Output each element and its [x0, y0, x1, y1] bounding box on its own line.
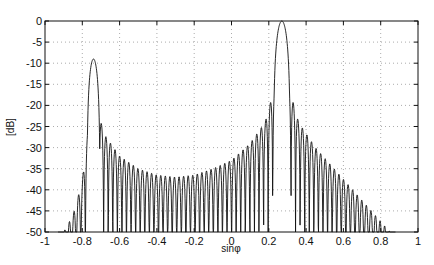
x-tick-label: 0.4 [298, 235, 313, 247]
y-tick-label: -40 [26, 184, 42, 196]
y-axis-label: [dB] [5, 118, 16, 136]
x-tick-label: -0.2 [185, 235, 204, 247]
y-tick-label: -10 [26, 57, 42, 69]
y-tick-label: -30 [26, 142, 42, 154]
x-tick-label: -0.8 [73, 235, 92, 247]
y-tick-label: -25 [26, 121, 42, 133]
x-axis-label: sinφ [221, 243, 241, 254]
x-tick-label: -0.4 [147, 235, 166, 247]
y-tick-label: -45 [26, 205, 42, 217]
y-tick-label: -35 [26, 163, 42, 175]
y-tick-label: -50 [26, 226, 42, 238]
x-tick-label: 0.2 [261, 235, 276, 247]
y-tick-label: -20 [26, 99, 42, 111]
x-tick-label: 0.8 [373, 235, 388, 247]
y-tick-label: -5 [32, 36, 42, 48]
x-axis-ticks: -1-0.8-0.6-0.4-0.200.20.40.60.81 [40, 21, 421, 247]
y-tick-label: -15 [26, 78, 42, 90]
beam-pattern-chart: -1-0.8-0.6-0.4-0.200.20.40.60.81 0-5-10-… [0, 0, 434, 265]
y-tick-label: 0 [36, 15, 42, 27]
x-tick-label: -0.6 [110, 235, 129, 247]
x-tick-label: 0.6 [336, 235, 351, 247]
beam-pattern-curve [58, 21, 395, 232]
x-tick-label: 1 [415, 235, 421, 247]
